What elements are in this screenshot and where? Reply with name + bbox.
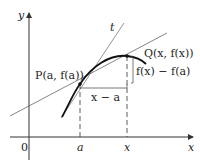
origin-label: 0 — [21, 141, 28, 154]
horizontal-increment-label: x − a — [91, 91, 120, 104]
tick-label-x: x — [124, 141, 131, 154]
diagram-canvas: y x 0 a x t P(a, f(a)) Q(x, f(x)) x − a … — [0, 0, 200, 164]
secant-tangent-diagram: y x 0 a x t P(a, f(a)) Q(x, f(x)) x − a … — [0, 0, 200, 164]
vertical-increment-label: f(x) − f(a) — [136, 65, 190, 78]
tick-label-a: a — [77, 141, 84, 154]
y-axis-label: y — [17, 9, 25, 22]
point-p — [78, 82, 82, 86]
point-p-label: P(a, f(a)) — [35, 69, 84, 82]
vertical-increment-bracket — [131, 57, 133, 83]
x-axis-label: x — [188, 141, 195, 154]
point-q — [125, 54, 129, 58]
point-q-label: Q(x, f(x)) — [144, 47, 194, 60]
tangent-label: t — [110, 21, 115, 34]
